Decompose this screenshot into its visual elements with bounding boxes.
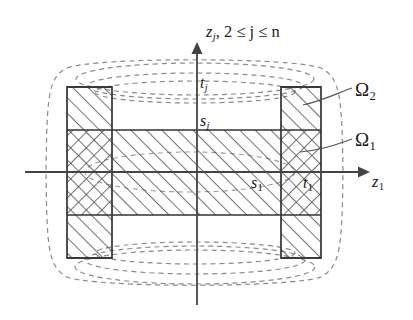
region-label-omega-1: Ω1 (355, 130, 376, 152)
tick-label-s-1: s1 (251, 175, 263, 194)
tick-label-t-1: t1 (303, 175, 313, 194)
region-right-bottom-diagonal (281, 215, 321, 258)
region-label-omega-2: Ω2 (355, 80, 376, 102)
tick-label-t-j: tj (200, 75, 208, 94)
diagram-canvas (0, 0, 413, 320)
vertical-axis-arrowhead (192, 42, 203, 54)
horizontal-axis-arrowhead (358, 167, 370, 178)
region-left-bottom-diagonal (67, 215, 112, 258)
math-figure: zj, 2 ≤ j ≤ n z1 tj sj s1 t1 Ω2 Ω1 (0, 0, 413, 320)
region-right-top-diagonal (281, 87, 321, 130)
tick-label-s-j: sj (200, 113, 209, 132)
region-left-top-diagonal (67, 87, 112, 130)
axis-label-z-1: z1 (372, 174, 384, 192)
axis-label-z-j: zj, 2 ≤ j ≤ n (206, 24, 280, 42)
